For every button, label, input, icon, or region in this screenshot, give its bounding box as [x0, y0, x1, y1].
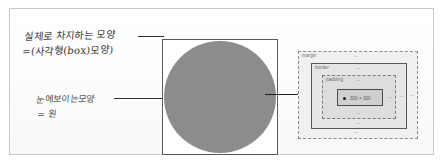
leader-line-box-shape	[138, 36, 164, 37]
margin-tick-right: –	[411, 93, 414, 98]
margin-tick-top: –	[355, 54, 358, 59]
annotation-visible-shape-line2: = 원	[37, 106, 94, 122]
annotation-box-shape-line2: =(사각형(box)모양)	[22, 43, 115, 59]
border-tick-top: –	[357, 66, 360, 71]
box-model-margin-label: margin	[302, 53, 317, 59]
box-model-border-layer: border – – – padding – – – 300 × 300	[311, 63, 407, 129]
padding-tick-top: –	[357, 78, 360, 83]
content-anchor-dot	[343, 97, 346, 100]
margin-tick-bottom: –	[355, 130, 358, 135]
annotation-box-shape: 실제로 차지하는 모양 =(사각형(box)모양)	[23, 28, 116, 59]
figure-canvas: 실제로 차지하는 모양 =(사각형(box)모양) 눈에보이는모양 = 원 ma…	[0, 0, 447, 164]
border-tick-bottom: –	[357, 121, 360, 126]
box-model-diagram: margin – – – border – – – padding – – –	[298, 51, 418, 139]
border-tick-right: –	[400, 94, 403, 99]
leader-line-visible-shape	[114, 98, 164, 99]
content-size-label: 300 × 300	[350, 96, 371, 102]
box-model-padding-label: padding	[326, 77, 343, 83]
box-model-content-box: 300 × 300	[337, 89, 383, 106]
scan-frame: 실제로 차지하는 모양 =(사각형(box)모양) 눈에보이는모양 = 원 ma…	[9, 8, 434, 155]
box-model-padding-layer: padding – – – 300 × 300	[322, 75, 396, 119]
box-model-margin-layer: margin – – – border – – – padding – – –	[298, 51, 418, 139]
padding-tick-bottom: –	[357, 111, 360, 116]
shape-square	[162, 39, 278, 155]
padding-tick-right: –	[389, 95, 392, 100]
box-model-border-label: border	[315, 65, 329, 71]
annotation-box-shape-line1: 실제로 차지하는 모양	[24, 29, 116, 42]
annotation-visible-shape: 눈에보이는모양 = 원	[35, 91, 96, 122]
annotation-visible-shape-line1: 눈에보이는모양	[36, 93, 95, 104]
shape-circle	[164, 41, 276, 153]
